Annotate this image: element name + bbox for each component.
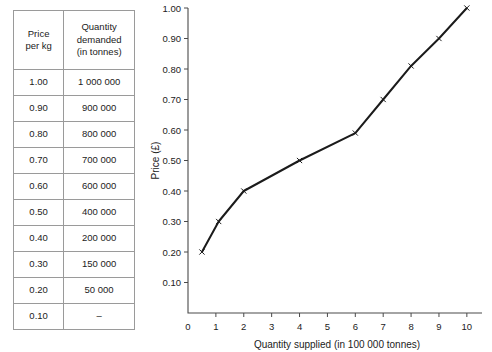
x-tick-label: 2: [241, 321, 246, 332]
cell-price: 0.20: [14, 278, 64, 304]
x-tick-label: 6: [353, 321, 358, 332]
cell-price: 0.10: [14, 304, 64, 330]
cell-price: 1.00: [14, 70, 64, 96]
y-tick-label: 0.50: [163, 155, 182, 166]
header-price-line2: per kg: [16, 40, 61, 53]
header-qty-line1: Quantity: [66, 21, 132, 34]
table-row: 0.30 150 000: [14, 252, 135, 278]
cell-quantity: 800 000: [64, 122, 135, 148]
cell-price: 0.60: [14, 174, 64, 200]
cell-quantity: –: [64, 304, 135, 330]
header-price-line1: Price: [16, 28, 61, 41]
table-row: 0.60 600 000: [14, 174, 135, 200]
demand-table: Price per kg Quantity demanded (in tonne…: [13, 10, 135, 330]
chart-svg: 0.100.200.300.400.500.600.700.800.901.00…: [148, 0, 492, 352]
x-tick-label: 0: [185, 321, 190, 332]
y-tick-label: 0.60: [163, 125, 182, 136]
y-tick-label: 0.90: [163, 33, 182, 44]
table-row: 0.40 200 000: [14, 226, 135, 252]
x-tick-label: 1: [213, 321, 218, 332]
x-tick-label: 9: [436, 321, 441, 332]
header-cell-quantity: Quantity demanded (in tonnes): [64, 11, 135, 70]
table-header-row: Price per kg Quantity demanded (in tonne…: [14, 11, 135, 70]
x-tick-label: 3: [269, 321, 274, 332]
x-tick-label: 10: [462, 321, 473, 332]
table-row: 0.70 700 000: [14, 148, 135, 174]
y-tick-label: 0.40: [163, 186, 182, 197]
cell-quantity: 150 000: [64, 252, 135, 278]
cell-price: 0.50: [14, 200, 64, 226]
header-qty-line2: demanded: [66, 34, 132, 47]
table-row: 0.50 400 000: [14, 200, 135, 226]
y-tick-label: 0.70: [163, 94, 182, 105]
chart-axes: [188, 8, 482, 313]
chart-render-group: 0.100.200.300.400.500.600.700.800.901.00…: [150, 3, 482, 351]
cell-quantity: 50 000: [64, 278, 135, 304]
table-row: 0.90 900 000: [14, 96, 135, 122]
cell-quantity: 1 000 000: [64, 70, 135, 96]
cell-price: 0.90: [14, 96, 64, 122]
header-qty-line3: (in tonnes): [66, 46, 132, 59]
cell-quantity: 700 000: [64, 148, 135, 174]
cell-price: 0.30: [14, 252, 64, 278]
x-tick-label: 8: [408, 321, 413, 332]
demand-table-body: Price per kg Quantity demanded (in tonne…: [14, 11, 135, 330]
x-axis-title: Quantity supplied (in 100 000 tonnes): [254, 339, 420, 350]
cell-quantity: 900 000: [64, 96, 135, 122]
cell-price: 0.40: [14, 226, 64, 252]
y-tick-label: 0.30: [163, 216, 182, 227]
y-axis-title: Price (£): [150, 142, 161, 180]
x-tick-label: 4: [297, 321, 302, 332]
x-tick-label: 7: [381, 321, 386, 332]
x-tick-label: 5: [325, 321, 330, 332]
series-line-supply: [202, 8, 467, 252]
y-tick-label: 0.10: [163, 277, 182, 288]
supply-curve-chart: 0.100.200.300.400.500.600.700.800.901.00…: [148, 0, 492, 352]
y-tick-label: 0.20: [163, 247, 182, 258]
cell-quantity: 400 000: [64, 200, 135, 226]
table-row: 0.10 –: [14, 304, 135, 330]
table-row: 0.80 800 000: [14, 122, 135, 148]
cell-quantity: 200 000: [64, 226, 135, 252]
cell-quantity: 600 000: [64, 174, 135, 200]
cell-price: 0.70: [14, 148, 64, 174]
y-tick-label: 0.80: [163, 64, 182, 75]
table-row: 1.00 1 000 000: [14, 70, 135, 96]
header-cell-price: Price per kg: [14, 11, 64, 70]
cell-price: 0.80: [14, 122, 64, 148]
table-row: 0.20 50 000: [14, 278, 135, 304]
y-tick-label: 1.00: [163, 3, 182, 14]
